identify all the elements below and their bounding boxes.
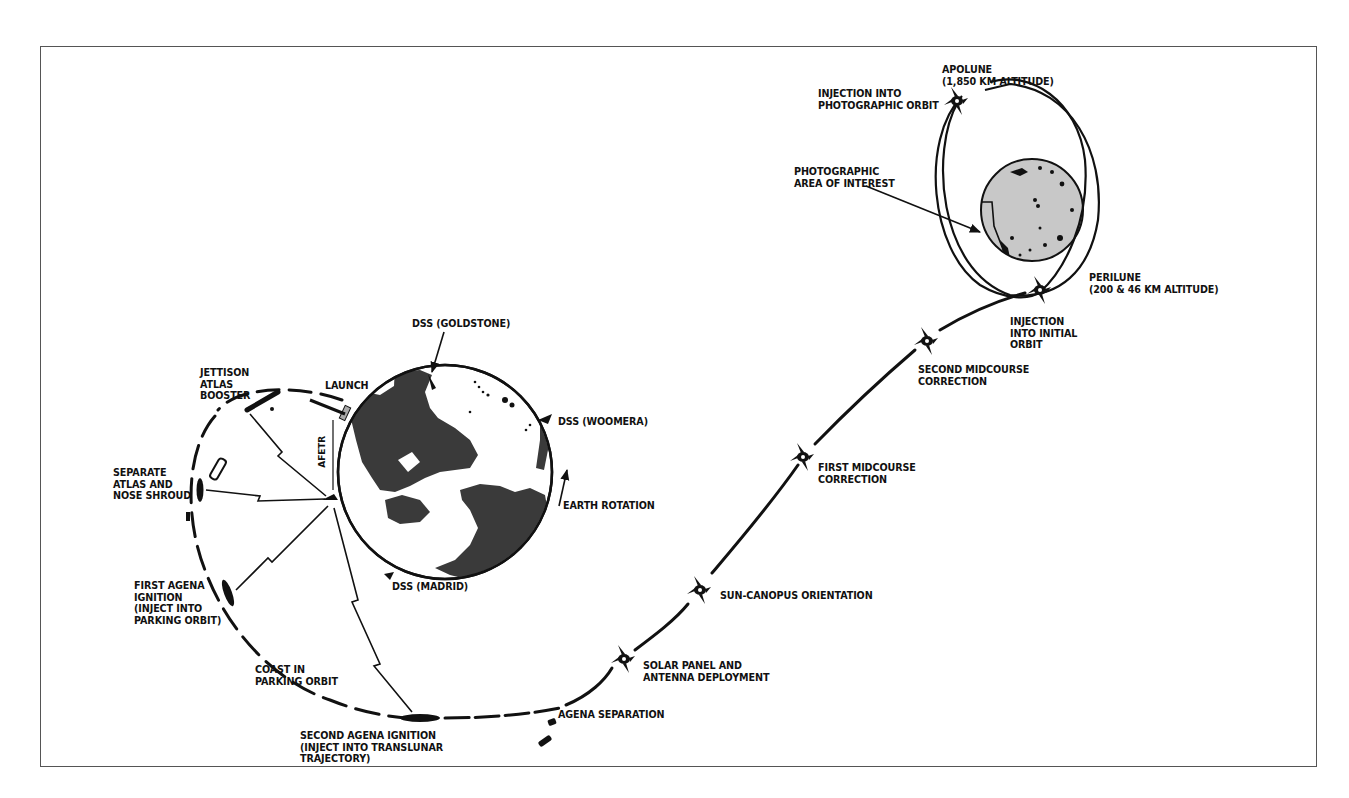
label-photographic-area: PHOTOGRAPHIC AREA OF INTEREST <box>794 166 895 189</box>
moon <box>981 159 1083 261</box>
nose-shroud-icon <box>209 457 227 480</box>
debris-icon <box>186 512 190 521</box>
agena-stage-icon <box>538 735 553 748</box>
spacecraft-icon <box>687 576 711 604</box>
label-first-agena-ignition: FIRST AGENA IGNITION (INJECT INTO PARKIN… <box>134 580 221 626</box>
label-dss-woomera: DSS (WOOMERA) <box>558 416 648 428</box>
label-coast-parking-orbit: COAST IN PARKING ORBIT <box>255 664 338 687</box>
label-launch: LAUNCH <box>325 380 369 392</box>
label-afetr: AFETR <box>317 436 329 468</box>
spacecraft-icon <box>914 327 938 355</box>
booster-icon <box>247 392 278 410</box>
label-first-midcourse: FIRST MIDCOURSE CORRECTION <box>818 462 916 485</box>
label-injection-initial-orbit: INJECTION INTO INITIAL ORBIT <box>1010 316 1077 351</box>
spacecraft-icon <box>611 645 635 673</box>
spacecraft-icon <box>790 443 814 471</box>
label-second-midcourse: SECOND MIDCOURSE CORRECTION <box>918 364 1029 387</box>
agena-stage-icon <box>547 718 557 726</box>
agena-ignition-icon <box>219 578 236 607</box>
label-perilune: PERILUNE (200 & 46 KM ALTITUDE) <box>1089 272 1219 295</box>
label-jettison-booster: JETTISON ATLAS BOOSTER <box>200 367 250 402</box>
label-solar-panel: SOLAR PANEL AND ANTENNA DEPLOYMENT <box>643 660 769 683</box>
spacecraft-icon <box>944 87 968 115</box>
label-injection-photographic-orbit: INJECTION INTO PHOTOGRAPHIC ORBIT <box>818 88 939 111</box>
label-agena-separation: AGENA SEPARATION <box>558 709 664 721</box>
atlas-separation-icon <box>197 478 204 502</box>
label-dss-goldstone: DSS (GOLDSTONE) <box>412 318 510 330</box>
label-second-agena-ignition: SECOND AGENA IGNITION (INJECT INTO TRANS… <box>300 730 443 765</box>
label-dss-madrid: DSS (MADRID) <box>392 581 468 593</box>
earth <box>338 365 552 590</box>
label-earth-rotation: EARTH ROTATION <box>563 500 655 512</box>
label-apolune: APOLUNE (1,850 KM ALTITUDE) <box>942 64 1054 87</box>
agena-ignition-icon <box>400 714 440 722</box>
label-sun-canopus: SUN-CANOPUS ORIENTATION <box>720 590 873 602</box>
label-separate-atlas: SEPARATE ATLAS AND NOSE SHROUD <box>113 467 191 502</box>
spacecraft-icon <box>1027 276 1051 304</box>
